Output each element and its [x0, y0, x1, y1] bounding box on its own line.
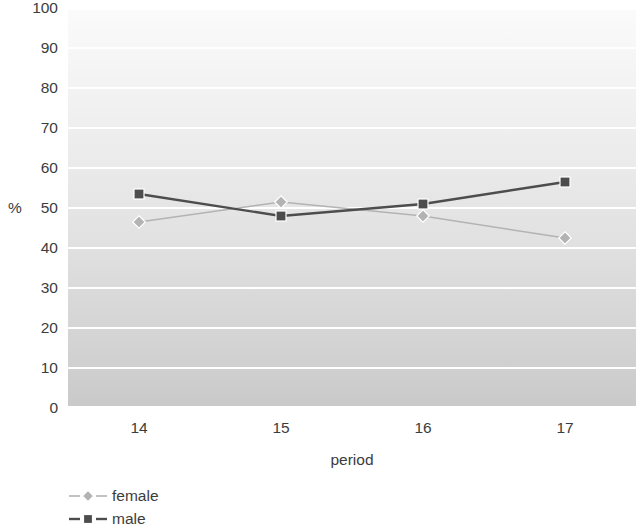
plot-area — [68, 8, 636, 408]
y-axis-tick: 50 — [0, 200, 58, 216]
chart-legend: femalemale — [68, 484, 368, 528]
square-marker-icon — [68, 511, 108, 527]
y-axis-tick: 60 — [0, 160, 58, 176]
y-axis-tick-labels: 1009080706050403020100 — [0, 8, 58, 408]
x-axis-title: period — [68, 452, 636, 468]
y-axis-tick: 0 — [0, 400, 58, 416]
legend-label: female — [112, 488, 159, 504]
series-layer — [68, 8, 636, 408]
y-axis-tick: 10 — [0, 360, 58, 376]
y-axis-tick: 80 — [0, 80, 58, 96]
series-male — [134, 177, 570, 221]
data-point-male-16 — [418, 199, 428, 209]
data-point-female-15 — [275, 196, 288, 209]
y-axis-tick: 40 — [0, 240, 58, 256]
y-axis-tick: 100 — [0, 0, 58, 16]
x-axis-tick: 14 — [109, 420, 169, 436]
data-point-male-17 — [560, 177, 570, 187]
y-axis-tick: 90 — [0, 40, 58, 56]
y-axis-tick: 20 — [0, 320, 58, 336]
series-line-female — [139, 202, 565, 238]
data-point-male-15 — [276, 211, 286, 221]
x-axis-tick-labels: 14151617 — [68, 420, 636, 440]
data-point-male-14 — [134, 189, 144, 199]
series-line-male — [139, 182, 565, 216]
data-point-female-17 — [559, 232, 572, 245]
x-axis-tick: 15 — [251, 420, 311, 436]
x-axis-tick: 16 — [393, 420, 453, 436]
x-axis-tick: 17 — [535, 420, 595, 436]
y-axis-tick: 30 — [0, 280, 58, 296]
data-point-female-14 — [133, 216, 146, 229]
legend-item-female[interactable]: female — [68, 484, 368, 507]
legend-label: male — [112, 511, 146, 527]
legend-item-male[interactable]: male — [68, 507, 368, 528]
data-point-female-16 — [417, 210, 430, 223]
diamond-marker-icon — [68, 488, 108, 504]
y-axis-tick: 70 — [0, 120, 58, 136]
